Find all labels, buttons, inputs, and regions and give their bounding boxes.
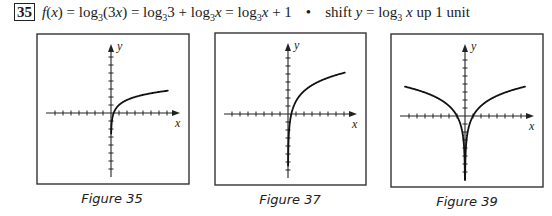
- figure-37-x-label: x: [351, 117, 358, 131]
- figure-35-caption: Figure 35: [62, 191, 162, 206]
- figure-39-curve-mirror: [405, 87, 465, 180]
- figure-37-y-label: y: [293, 38, 300, 52]
- figure-37-curve: [288, 73, 345, 166]
- figure-35-graph: xyxyxy: [0, 0, 552, 216]
- figure-35-y-label: y: [116, 39, 123, 53]
- figure-35-x-label: x: [174, 116, 181, 130]
- figure-39-x-label: x: [528, 119, 535, 133]
- figure-39-y-label: y: [470, 39, 477, 53]
- y-axis-arrow-icon: [108, 44, 114, 52]
- y-axis-arrow-icon: [285, 43, 291, 51]
- figure-39-curve: [465, 87, 525, 180]
- y-axis-arrow-icon: [462, 44, 468, 52]
- figure-37-caption: Figure 37: [240, 192, 340, 207]
- figure-39-caption: Figure 39: [417, 194, 517, 209]
